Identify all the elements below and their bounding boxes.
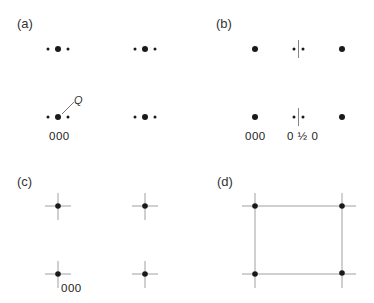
- panel-d-label: (d): [217, 174, 233, 189]
- main-spot: [252, 46, 258, 52]
- lattice-spot: [339, 203, 345, 209]
- split-spot-pair: [293, 40, 305, 58]
- panel-a: (a) Q 000: [17, 16, 157, 142]
- spot-group-satellite: [47, 46, 70, 52]
- split-spot-pair: [293, 108, 305, 126]
- main-spot: [339, 46, 345, 52]
- main-spot: [339, 114, 345, 120]
- spot-group-satellite: [134, 114, 157, 120]
- lattice-spot: [339, 270, 345, 276]
- q-leader-line: [62, 102, 74, 114]
- panel-c: (c) 000: [17, 174, 158, 294]
- panel-b: (b) 000 0 ½ 0: [216, 16, 345, 142]
- panel-a-label: (a): [17, 16, 33, 31]
- streak-grid: [242, 193, 356, 288]
- spot-group-satellite: [134, 46, 157, 52]
- panel-c-label: (c): [17, 174, 32, 189]
- streaked-spot: [45, 193, 71, 220]
- half-index-label: 0 ½ 0: [287, 130, 318, 142]
- q-annotation: Q: [74, 94, 83, 106]
- streaked-spot: [132, 261, 158, 288]
- panel-b-label: (b): [216, 16, 232, 31]
- origin-index-label: 000: [61, 282, 82, 294]
- diffraction-diagram: (a) Q 000 (b): [0, 0, 374, 303]
- origin-index-label: 000: [245, 130, 266, 142]
- panel-d: (d): [217, 174, 356, 288]
- spot-group-satellite: [47, 114, 70, 120]
- lattice-spot: [252, 203, 258, 209]
- main-spot: [252, 114, 258, 120]
- lattice-spot: [252, 271, 258, 277]
- origin-index-label: 000: [49, 130, 70, 142]
- streaked-spot: [132, 193, 158, 220]
